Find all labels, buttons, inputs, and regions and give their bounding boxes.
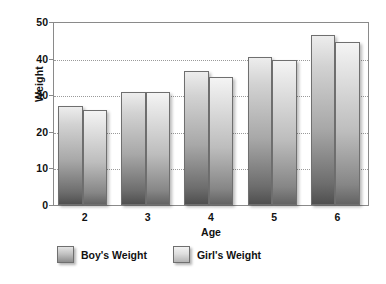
y-tick-label: 40	[20, 54, 48, 65]
legend-label-boys-weight: Boy's Weight	[81, 249, 147, 261]
y-tick-label: 50	[20, 17, 48, 28]
bar-groups	[53, 22, 369, 205]
legend-item-girls-weight: Girl's Weight	[173, 246, 261, 263]
legend-item-boys-weight: Boy's Weight	[57, 246, 147, 263]
bar-girls-weight-age-6	[335, 42, 360, 205]
y-tick-label: 20	[20, 127, 48, 138]
bar-group	[179, 22, 242, 205]
x-tick-label: 2	[53, 211, 116, 223]
x-tick-label: 3	[116, 211, 179, 223]
bar-boys-weight-age-2	[58, 106, 83, 205]
bar-girls-weight-age-4	[209, 77, 234, 205]
bar-girls-weight-age-5	[272, 60, 297, 205]
bar-group	[306, 22, 369, 205]
bar-group	[116, 22, 179, 205]
x-tick-label: 5	[243, 211, 306, 223]
bar-boys-weight-age-4	[184, 71, 209, 205]
bar-boys-weight-age-3	[121, 92, 146, 205]
x-axis-line	[53, 205, 369, 206]
bar-group	[53, 22, 116, 205]
y-tick-label: 0	[20, 200, 48, 211]
bar-boys-weight-age-5	[248, 57, 273, 205]
legend-label-girls-weight: Girl's Weight	[197, 249, 261, 261]
y-tick-label: 10	[20, 163, 48, 174]
bar-girls-weight-age-2	[83, 110, 108, 205]
y-tick-label: 30	[20, 90, 48, 101]
x-axis-title: Age	[53, 226, 369, 238]
bar-group	[243, 22, 306, 205]
legend-swatch-girls-weight	[173, 246, 190, 263]
bar-girls-weight-age-3	[146, 92, 171, 205]
chart-legend: Boy's Weight Girl's Weight	[57, 246, 261, 263]
y-tick-mark	[49, 205, 54, 206]
bar-chart: Weight 01020304050 23456 Age Boy's Weigh…	[0, 0, 386, 284]
x-tick-label: 4	[179, 211, 242, 223]
legend-swatch-boys-weight	[57, 246, 74, 263]
x-tick-label: 6	[306, 211, 369, 223]
bar-boys-weight-age-6	[311, 35, 336, 205]
